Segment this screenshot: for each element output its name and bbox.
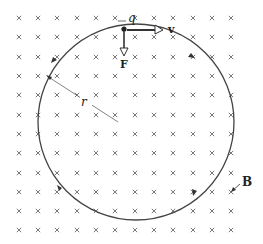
field-into-page-icon: [94, 228, 98, 232]
field-into-page-icon: [36, 171, 40, 175]
field-into-page-icon: [133, 55, 137, 59]
field-into-page-icon: [191, 93, 195, 97]
field-into-page-icon: [210, 228, 214, 232]
field-into-page-icon: [229, 16, 233, 20]
field-into-page-icon: [55, 190, 59, 194]
field-into-page-icon: [113, 171, 117, 175]
field-into-page-icon: [36, 209, 40, 213]
field-into-page-icon: [191, 35, 195, 39]
field-into-page-icon: [55, 16, 59, 20]
field-into-page-icon: [75, 35, 79, 39]
field-into-page-icon: [75, 209, 79, 213]
field-into-page-icon: [113, 35, 117, 39]
field-into-page-icon: [152, 113, 156, 117]
field-into-page-icon: [36, 228, 40, 232]
field-into-page-icon: [171, 132, 175, 136]
field-into-page-icon: [191, 228, 195, 232]
field-into-page-icon: [133, 74, 137, 78]
field-into-page-icon: [152, 93, 156, 97]
charge-label: q: [128, 11, 136, 25]
field-into-page-icon: [94, 55, 98, 59]
field-into-page-icon: [133, 190, 137, 194]
field-into-page-icon: [210, 35, 214, 39]
field-into-page-icon: [36, 151, 40, 155]
field-into-page-icon: [17, 171, 21, 175]
field-into-page-icon: [171, 171, 175, 175]
field-into-page-icon: [113, 151, 117, 155]
field-into-page-icon: [171, 74, 175, 78]
field-into-page-icon: [229, 171, 233, 175]
field-into-page-icon: [55, 151, 59, 155]
field-into-page-icon: [229, 55, 233, 59]
field-into-page-icon: [152, 228, 156, 232]
field-into-page-icon: [229, 228, 233, 232]
field-into-page-icon: [113, 113, 117, 117]
field-into-page-icon: [55, 74, 59, 78]
field-into-page-icon: [210, 113, 214, 117]
field-into-page-icon: [17, 151, 21, 155]
field-into-page-icon: [133, 35, 137, 39]
field-into-page-icon: [133, 171, 137, 175]
field-into-page-icon: [152, 171, 156, 175]
field-into-page-icon: [210, 132, 214, 136]
field-into-page-icon: [171, 190, 175, 194]
field-into-page-icon: [133, 151, 137, 155]
field-into-page-icon: [36, 35, 40, 39]
field-into-page-icon: [152, 55, 156, 59]
field-into-page-icon: [17, 16, 21, 20]
field-into-page-icon: [75, 55, 79, 59]
field-into-page-icon: [55, 132, 59, 136]
field-into-page-icon: [171, 16, 175, 20]
field-into-page-icon: [75, 74, 79, 78]
field-into-page-icon: [36, 93, 40, 97]
force-arrowhead-icon: [120, 48, 128, 56]
field-into-page-icon: [17, 113, 21, 117]
field-into-page-icon: [113, 74, 117, 78]
field-into-page-icon: [191, 209, 195, 213]
field-into-page-icon: [55, 209, 59, 213]
field-into-page-icon: [55, 55, 59, 59]
field-into-page-icon: [113, 16, 117, 20]
field-into-page-icon: [229, 35, 233, 39]
field-into-page-icon: [17, 190, 21, 194]
field-into-page-icon: [152, 35, 156, 39]
field-into-page-icon: [113, 209, 117, 213]
field-into-page-icon: [210, 93, 214, 97]
field-into-page-icon: [229, 74, 233, 78]
field-into-page-icon: [171, 151, 175, 155]
field-into-page-icon: [210, 16, 214, 20]
field-into-page-icon: [75, 228, 79, 232]
field-into-page-icon: [94, 74, 98, 78]
field-into-page-icon: [113, 132, 117, 136]
field-into-page-icon: [133, 209, 137, 213]
field-into-page-icon: [36, 16, 40, 20]
field-into-page-icon: [152, 132, 156, 136]
field-into-page-icon: [152, 74, 156, 78]
field-into-page-icon: [152, 209, 156, 213]
field-into-page-icon: [75, 132, 79, 136]
field-into-page-icon: [17, 74, 21, 78]
field-into-page-icon: [55, 35, 59, 39]
field-into-page-icon: [229, 209, 233, 213]
field-into-page-icon: [113, 55, 117, 59]
field-into-page-icon: [94, 132, 98, 136]
field-into-page-icon: [191, 113, 195, 117]
field-into-page-icon: [94, 171, 98, 175]
field-into-page-icon: [191, 171, 195, 175]
field-into-page-icon: [36, 190, 40, 194]
field-into-page-icon: [94, 151, 98, 155]
field-into-page-icon: [191, 151, 195, 155]
force-label: F: [120, 58, 128, 71]
field-into-page-icon: [94, 35, 98, 39]
field-into-page-icon: [55, 113, 59, 117]
field-into-page-icon: [171, 113, 175, 117]
diagram-svg: r q v F B: [0, 0, 263, 244]
field-into-page-icon: [210, 151, 214, 155]
field-into-page-icon: [210, 209, 214, 213]
arrowhead-icon: [192, 189, 197, 196]
field-into-page-icon: [17, 132, 21, 136]
field-into-page-icon: [191, 74, 195, 78]
field-into-page-icon: [75, 190, 79, 194]
field-into-page-icon: [55, 171, 59, 175]
field-label: B: [242, 175, 252, 189]
